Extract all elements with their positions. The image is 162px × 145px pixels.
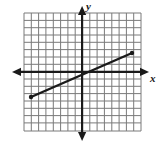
y-axis-label: y [84, 0, 91, 12]
x-axis-left-arrowhead [12, 68, 21, 76]
y-axis-top-arrowhead [78, 6, 86, 15]
coordinate-plane-figure: y x [0, 0, 162, 145]
x-axis-label: x [149, 72, 156, 84]
y-axis-bottom-arrowhead [78, 132, 86, 141]
x-axis-right-arrowhead [140, 68, 149, 76]
line-endpoint-right [130, 51, 134, 55]
line-endpoint-left [29, 95, 33, 99]
graph-screenshot: y x [0, 0, 162, 145]
